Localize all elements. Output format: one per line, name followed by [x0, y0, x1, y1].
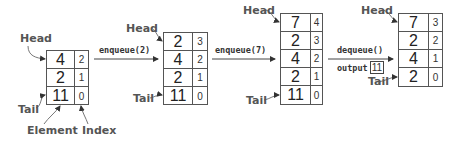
- element-cell: 11: [47, 87, 75, 105]
- index-cell: 2: [311, 50, 322, 67]
- index-cell: 4: [311, 14, 322, 31]
- element-cell: 2: [399, 32, 429, 49]
- head-label: Head: [243, 4, 275, 17]
- head-label: Head: [20, 32, 52, 45]
- queue-row: 73: [399, 14, 442, 32]
- operation-dequeue: dequeue(): [337, 45, 383, 55]
- index-cell: 2: [75, 51, 88, 68]
- element-cell: 11: [281, 86, 311, 104]
- queue-row: 74: [281, 14, 322, 32]
- index-cell: 3: [311, 32, 322, 49]
- index-cell: 0: [75, 87, 88, 105]
- head-label: Head: [126, 22, 158, 35]
- element-cell: 2: [164, 33, 193, 50]
- element-label: Element: [27, 124, 78, 137]
- queue-row: 41: [399, 50, 442, 68]
- queue-row: 20: [399, 68, 442, 86]
- queue-row: 42: [47, 51, 88, 69]
- element-cell: 2: [164, 69, 193, 86]
- index-cell: 1: [193, 69, 207, 86]
- queue-row: 42: [281, 50, 322, 68]
- tail-label: Tail: [246, 94, 267, 107]
- element-cell: 4: [47, 51, 75, 68]
- element-cell: 11: [164, 87, 193, 105]
- index-cell: 3: [193, 33, 207, 50]
- index-label: Index: [82, 124, 116, 137]
- tail-label: Tail: [368, 75, 389, 88]
- element-cell: 7: [281, 14, 311, 31]
- element-cell: 4: [281, 50, 311, 67]
- index-cell: 0: [311, 86, 322, 104]
- queue-row: 23: [164, 33, 207, 51]
- element-cell: 2: [47, 69, 75, 86]
- element-cell: 4: [399, 50, 429, 67]
- queue-row: 21: [281, 68, 322, 86]
- output-value-box: 11: [370, 61, 384, 74]
- operation-enqueue-2: enqueue(2): [99, 45, 150, 55]
- queue-row: 110: [281, 86, 322, 104]
- queue-state-1: 42 21 110: [46, 50, 89, 105]
- index-cell: 1: [311, 68, 322, 85]
- queue-row: 42: [164, 51, 207, 69]
- element-cell: 7: [399, 14, 429, 31]
- output-label: output: [337, 63, 368, 73]
- queue-row: 23: [281, 32, 322, 50]
- queue-row: 110: [164, 87, 207, 105]
- index-cell: 3: [429, 14, 442, 31]
- queue-state-4: 73 22 41 20: [398, 13, 443, 87]
- tail-label: Tail: [18, 103, 39, 116]
- index-cell: 1: [75, 69, 88, 86]
- operation-enqueue-7: enqueue(7): [215, 45, 266, 55]
- queue-row: 21: [164, 69, 207, 87]
- tail-label: Tail: [133, 92, 154, 105]
- queue-state-2: 23 42 21 110: [163, 32, 208, 105]
- queue-row: 21: [47, 69, 88, 87]
- element-cell: 2: [281, 68, 311, 85]
- queue-row: 110: [47, 87, 88, 105]
- head-label: Head: [361, 4, 393, 17]
- index-cell: 0: [429, 68, 442, 86]
- element-cell: 2: [399, 68, 429, 86]
- index-cell: 2: [429, 32, 442, 49]
- element-cell: 2: [281, 32, 311, 49]
- queue-row: 22: [399, 32, 442, 50]
- dequeue-output: output11: [337, 61, 384, 74]
- queue-state-3: 74 23 42 21 110: [280, 13, 323, 105]
- index-cell: 1: [429, 50, 442, 67]
- index-cell: 2: [193, 51, 207, 68]
- index-cell: 0: [193, 87, 207, 105]
- element-cell: 4: [164, 51, 193, 68]
